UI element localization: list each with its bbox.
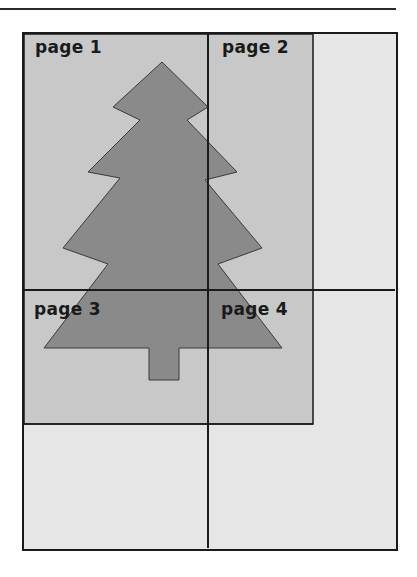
page-2-label: page 2	[222, 39, 289, 56]
tiling-diagram	[0, 0, 417, 577]
page-4-label: page 4	[221, 301, 288, 318]
page-3-label: page 3	[34, 301, 101, 318]
page-1-label: page 1	[35, 39, 102, 56]
